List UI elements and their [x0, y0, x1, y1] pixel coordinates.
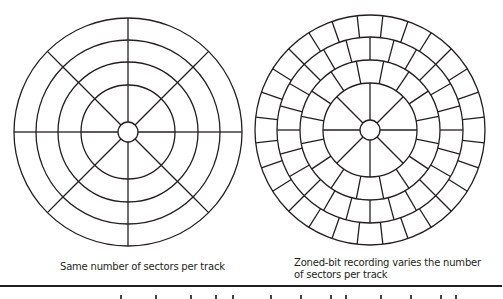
sector-divider: [401, 218, 408, 239]
sector-divider: [405, 49, 417, 69]
sector-divider: [79, 165, 95, 181]
sector-divider: [419, 179, 435, 195]
sector-divider: [280, 148, 302, 154]
sector-divider: [161, 165, 177, 181]
sector-divider: [177, 67, 193, 83]
track-circle: [300, 60, 440, 200]
sector-divider: [332, 218, 339, 239]
sector-divider: [337, 137, 363, 163]
caption-zoned-line-1: Zoned-bit recording varies the number: [294, 257, 481, 269]
sector-divider: [301, 139, 324, 143]
sector-divider: [47, 197, 63, 213]
sector-divider: [458, 161, 479, 168]
glyph-fragment: [232, 295, 234, 299]
sector-divider: [177, 181, 193, 197]
horizontal-rule: [0, 285, 502, 287]
sector-divider: [332, 21, 339, 42]
glyph-fragment: [380, 295, 382, 299]
sector-divider: [289, 165, 309, 177]
sector-divider: [356, 176, 360, 199]
sector-divider: [405, 191, 417, 211]
sector-divider: [312, 156, 331, 169]
caption-zoned-line-2: of sectors per track: [294, 269, 481, 281]
sector-divider: [256, 117, 278, 119]
sector-divider: [380, 222, 382, 244]
sector-divider: [416, 116, 439, 120]
sector-divider: [63, 181, 79, 197]
sector-divider: [324, 191, 336, 211]
sector-divider: [438, 106, 460, 112]
sector-divider: [416, 139, 439, 143]
sector-divider: [273, 69, 292, 81]
sector-divider: [458, 92, 479, 99]
sector-divider: [161, 83, 177, 99]
sector-divider: [396, 169, 409, 188]
sector-divider: [193, 51, 209, 67]
sector-divider: [438, 148, 460, 154]
sector-divider: [409, 91, 428, 104]
glyph-fragment: [270, 295, 272, 299]
sector-divider: [280, 106, 302, 112]
sector-divider: [135, 139, 161, 165]
sector-divider: [289, 196, 305, 212]
sector-divider: [431, 84, 451, 96]
sector-divider: [388, 198, 394, 220]
sector-divider: [261, 92, 282, 99]
glyph-fragment: [330, 295, 332, 299]
sector-divider: [301, 116, 324, 120]
sector-divider: [309, 209, 321, 228]
sector-divider: [377, 137, 403, 163]
sector-divider: [380, 16, 382, 38]
sector-divider: [419, 33, 431, 52]
sector-divider: [379, 61, 383, 84]
sector-divider: [337, 97, 363, 123]
sector-divider: [357, 16, 359, 38]
glyph-fragment: [300, 295, 302, 299]
sector-divider: [449, 179, 468, 191]
sector-divider: [95, 139, 121, 165]
sector-divider: [273, 179, 292, 191]
cropped-text-line: [0, 292, 503, 299]
sector-divider: [256, 140, 278, 142]
disk-sector-diagram: [0, 0, 503, 299]
sector-divider: [379, 176, 383, 199]
sector-divider: [449, 69, 468, 81]
sector-divider: [377, 97, 403, 123]
sector-divider: [356, 61, 360, 84]
sector-divider: [431, 165, 451, 177]
sector-divider: [401, 21, 408, 42]
sector-divider: [324, 49, 336, 69]
track-circle: [360, 120, 380, 140]
glyph-fragment: [410, 295, 412, 299]
sector-divider: [289, 84, 309, 96]
sector-divider: [436, 49, 452, 65]
sector-divider: [304, 179, 320, 195]
sector-divider: [396, 72, 409, 91]
sector-divider: [193, 197, 209, 213]
sector-divider: [331, 169, 344, 188]
sector-divider: [346, 198, 352, 220]
glyph-fragment: [455, 295, 457, 299]
sector-divider: [95, 99, 121, 125]
sector-divider: [261, 161, 282, 168]
sector-divider: [419, 64, 435, 80]
sector-divider: [419, 209, 431, 228]
track-circle: [118, 122, 138, 142]
glyph-fragment: [215, 295, 217, 299]
sector-divider: [289, 49, 305, 65]
caption-zoned-bit-recording: Zoned-bit recording varies the number of…: [294, 257, 481, 281]
sector-divider: [79, 83, 95, 99]
sector-divider: [462, 140, 484, 142]
sector-divider: [47, 51, 63, 67]
sector-divider: [346, 40, 352, 62]
sector-divider: [312, 91, 331, 104]
glyph-fragment: [155, 295, 157, 299]
sector-divider: [304, 64, 320, 80]
glyph-fragment: [440, 295, 442, 299]
disk-zoned-bit-recording: [255, 15, 485, 245]
glyph-fragment: [345, 295, 347, 299]
sector-divider: [331, 72, 344, 91]
disk-same-sectors-per-track: [14, 18, 242, 246]
caption-same-sectors: Same number of sectors per track: [60, 261, 225, 273]
sector-divider: [357, 222, 359, 244]
